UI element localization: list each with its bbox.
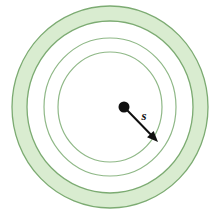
center-point-dot — [119, 102, 130, 113]
figure-canvas: s — [0, 0, 219, 219]
ring-outer-band-inner-edge — [27, 21, 193, 193]
radius-label: s — [140, 108, 146, 123]
concentric-circles-diagram: s — [0, 0, 219, 219]
